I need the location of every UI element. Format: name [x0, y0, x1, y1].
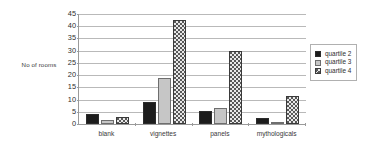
legend-swatch-icon-quartile-3: [315, 60, 321, 66]
y-axis-tick-label: 5: [72, 108, 76, 115]
bar: [199, 111, 212, 124]
x-axis-category-labels: blankvignettespanelsmythologicals: [78, 130, 305, 137]
bar-chart: No of rooms 051015202530354045 blankvign…: [0, 0, 380, 149]
legend-item-quartile-2: quartile 2: [315, 51, 351, 57]
y-axis-tick-mark: [77, 124, 79, 125]
y-axis-title: No of rooms: [8, 61, 70, 68]
legend-label-quartile-4: quartile 4: [325, 68, 351, 74]
gridline: [79, 124, 306, 125]
bar-group: [249, 14, 306, 124]
y-axis-tick-label: 35: [68, 35, 76, 42]
plot-area: 051015202530354045: [78, 14, 306, 125]
bar: [173, 20, 186, 124]
bar: [101, 120, 114, 124]
legend-swatch-icon-quartile-2: [315, 51, 321, 57]
legend-item-quartile-3: quartile 3: [315, 59, 351, 65]
bar: [143, 102, 156, 124]
y-axis-tick-label: 20: [68, 71, 76, 78]
bar: [286, 96, 299, 124]
bar-group: [193, 14, 250, 124]
y-axis-tick-label: 30: [68, 47, 76, 54]
legend-item-quartile-4: quartile 4: [315, 68, 351, 74]
bar: [271, 122, 284, 124]
bar-group: [136, 14, 193, 124]
legend: quartile 2 quartile 3 quartile 4: [310, 44, 357, 81]
bar-groups: [79, 14, 306, 124]
legend-label-quartile-3: quartile 3: [325, 59, 351, 65]
bar: [86, 114, 99, 124]
bar: [256, 118, 269, 124]
y-axis-tick-label: 0: [72, 120, 76, 127]
y-axis-tick-label: 40: [68, 23, 76, 30]
x-axis-category-label: mythologicals: [248, 130, 305, 137]
bar: [214, 108, 227, 124]
bar-group: [79, 14, 136, 124]
x-axis-category-label: vignettes: [135, 130, 192, 137]
legend-swatch-icon-quartile-4: [315, 68, 321, 74]
bar: [229, 51, 242, 124]
legend-label-quartile-2: quartile 2: [325, 51, 351, 57]
bar: [158, 78, 171, 124]
x-axis-category-label: panels: [192, 130, 249, 137]
bar: [116, 117, 129, 124]
y-axis-tick-label: 45: [68, 10, 76, 17]
y-axis-tick-label: 25: [68, 59, 76, 66]
y-axis-tick-label: 15: [68, 84, 76, 91]
y-axis-tick-label: 10: [68, 96, 76, 103]
x-axis-category-label: blank: [78, 130, 135, 137]
